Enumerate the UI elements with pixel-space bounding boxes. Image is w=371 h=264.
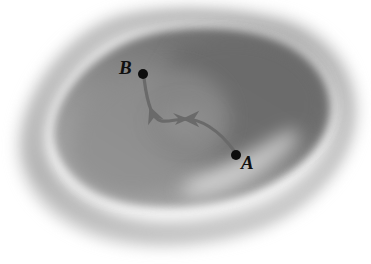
point-label-B: B xyxy=(119,58,132,77)
region-center-glow xyxy=(146,96,226,148)
point-marker-B[interactable] xyxy=(138,69,148,79)
point-label-A: A xyxy=(241,153,254,172)
point-marker-A[interactable] xyxy=(231,150,241,160)
shaded-region-diagram xyxy=(0,0,371,264)
figure-canvas: B A xyxy=(0,0,371,264)
